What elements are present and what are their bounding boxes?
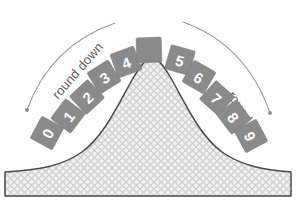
rounding-diagram-svg: round down round up 0123456789	[0, 0, 296, 212]
tile-background	[136, 37, 162, 63]
digit-tile-blank	[136, 37, 162, 63]
diagram-canvas: round down round up 0123456789	[0, 0, 296, 212]
round-down-arrow-tip	[25, 108, 29, 112]
round-up-arrow-tip	[268, 111, 272, 115]
